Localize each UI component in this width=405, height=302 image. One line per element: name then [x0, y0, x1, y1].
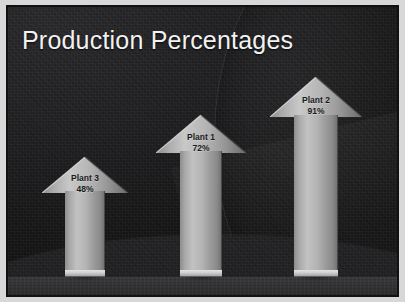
arrow-head: [270, 77, 362, 117]
arrow-stem-base: [65, 270, 105, 277]
page-title: Production Percentages: [22, 26, 293, 55]
arrow-plant-3[interactable]: Plant 3 48%: [42, 157, 128, 277]
arrow-stem: [294, 115, 338, 277]
arrow-stem: [65, 191, 105, 277]
slide-root: Production Percentages: [0, 0, 405, 302]
arrow-stem: [180, 151, 222, 277]
arrow-stem-base: [294, 270, 338, 277]
arrow-plant-2[interactable]: Plant 2 91%: [270, 77, 362, 277]
arrow-plant-1[interactable]: Plant 1 72%: [156, 115, 246, 277]
arrow-stem-base: [180, 270, 222, 277]
arrow-head: [156, 115, 246, 153]
slide-canvas: Production Percentages: [8, 7, 397, 295]
arrow-head: [42, 157, 128, 193]
